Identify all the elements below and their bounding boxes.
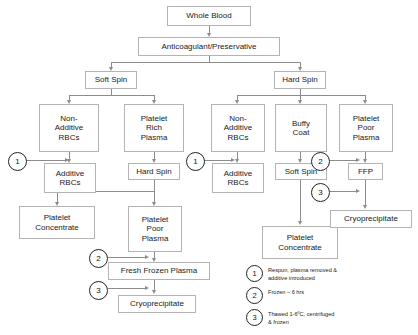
edge-marker1-left-line — [25, 160, 65, 161]
legend-marker-3: 3 — [246, 309, 263, 326]
arrowhead-marker2-right — [356, 158, 360, 162]
node-additive-rbcs-left: Additive RBCs — [44, 163, 96, 193]
legend-item-2: 2 Frozen – 6 hrs — [246, 286, 416, 306]
legend-marker-1: 1 — [246, 265, 263, 282]
legend-item-3: 3 Thawed 1-6ºC, centrifuged & frozen — [246, 308, 416, 328]
node-whole-blood: Whole Blood — [167, 6, 251, 26]
edge-marker3-right-line — [330, 191, 356, 192]
edge-anticoagulant-split — [111, 62, 301, 63]
node-platelet-concentrate-right: Platelet Concentrate — [262, 226, 338, 259]
node-hard-spin-mid: Hard Spin — [128, 163, 180, 180]
node-non-additive-rbcs-right: Non- Additive RBCs — [211, 104, 265, 152]
arrowhead-marker2-left — [145, 255, 149, 259]
edge-marker2-left-line — [108, 257, 145, 258]
edge-ffp-cryo-right — [365, 180, 366, 207]
marker-2-right: 2 — [311, 152, 330, 171]
node-non-additive-rbcs-left: Non- Additive RBCs — [39, 104, 99, 152]
marker-3-right: 3 — [311, 183, 330, 202]
edge-marker2-right-line — [330, 160, 356, 161]
legend-text-3: Thawed 1-6ºC, centrifuged & frozen — [268, 308, 416, 327]
arrowhead-cryo-right — [363, 205, 367, 209]
node-platelet-rich-plasma: Platelet Rich Plasma — [124, 104, 184, 152]
node-hard-spin-right: Hard Spin — [274, 71, 326, 89]
arrowhead-platelet-concentrate-right — [298, 221, 302, 225]
legend: 1 Respun, plasma removed & additive intr… — [246, 264, 416, 330]
edge-softspin-split — [69, 95, 154, 96]
node-additive-rbcs-right: Additive RBCs — [212, 163, 264, 193]
node-fresh-frozen-plasma: Fresh Frozen Plasma — [108, 262, 210, 280]
legend-text-1: Respun, plasma removed & additive introd… — [268, 264, 416, 283]
edge-hardspin-split — [237, 95, 365, 96]
marker-1-right: 1 — [186, 152, 205, 171]
legend-item-1: 1 Respun, plasma removed & additive intr… — [246, 264, 416, 284]
marker-1-left: 1 — [8, 152, 27, 171]
node-anticoagulant: Anticoagulant/Preservative — [138, 37, 280, 56]
edge-marker3-left-line — [108, 288, 145, 289]
node-cryoprecipitate-right: Cryoprecipitate — [330, 210, 412, 228]
edge-softspin-plateletconc-right — [300, 180, 301, 223]
node-platelet-poor-plasma-right: Platelet Poor Plasma — [339, 104, 393, 152]
node-platelet-poor-plasma-left: Platelet Poor Plasma — [128, 206, 182, 252]
node-ffp: FFP — [348, 163, 383, 180]
arrowhead-marker3-left — [145, 286, 149, 290]
arrowhead-cryo-left — [152, 290, 156, 294]
legend-marker-2: 2 — [246, 287, 263, 304]
marker-3-left: 3 — [89, 281, 108, 300]
marker-2-left: 2 — [89, 249, 108, 268]
edge-marker1-right-line — [203, 160, 231, 161]
node-buffy-coat: Buffy Coat — [275, 104, 327, 152]
node-cryoprecipitate-left: Cryoprecipitate — [118, 295, 196, 313]
node-soft-spin-left: Soft Spin — [85, 71, 137, 89]
flowchart-canvas: Whole Blood Anticoagulant/Preservative S… — [0, 0, 418, 335]
arrowhead-marker3-right — [356, 189, 360, 193]
node-platelet-concentrate-left: Platelet Concentrate — [19, 206, 95, 239]
legend-text-2: Frozen – 6 hrs — [268, 286, 416, 296]
